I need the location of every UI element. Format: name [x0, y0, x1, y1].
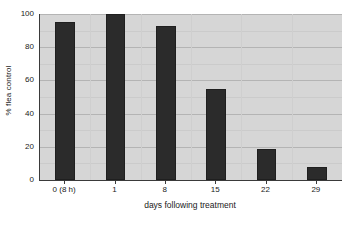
gridline-vertical	[292, 14, 293, 180]
x-axis-tick-label: 1	[112, 185, 116, 194]
x-axis-tick-mark	[64, 181, 65, 184]
bar	[206, 89, 225, 180]
gridline-vertical	[241, 14, 242, 180]
y-axis-title-text: % flea control	[5, 65, 14, 115]
x-axis-tick-label: 8	[163, 185, 167, 194]
bar	[257, 149, 276, 180]
gridline-vertical	[90, 14, 91, 180]
x-axis-tick-mark	[266, 181, 267, 184]
bar	[106, 14, 125, 180]
x-axis-tick-mark	[115, 181, 116, 184]
x-axis-tick-label: 22	[261, 185, 270, 194]
x-axis-title: days following treatment	[39, 200, 341, 210]
plot-area	[39, 14, 342, 181]
bar	[307, 167, 326, 180]
y-axis-tick-label: 20	[25, 143, 34, 151]
bar-chart-figure: % flea control 020406080100 days followi…	[0, 0, 354, 226]
x-axis-tick-label: 29	[311, 185, 320, 194]
gridline-vertical	[141, 14, 142, 180]
gridline-vertical	[191, 14, 192, 180]
x-axis-tick-mark	[165, 181, 166, 184]
y-axis-tick-label: 60	[25, 76, 34, 84]
x-axis-tick-mark	[215, 181, 216, 184]
y-axis-tick-label: 40	[25, 110, 34, 118]
x-axis-tick-mark	[316, 181, 317, 184]
y-axis-tick-label: 0	[30, 176, 34, 184]
y-axis-tick-label: 100	[21, 10, 34, 18]
x-axis-tick-label: 15	[211, 185, 220, 194]
y-axis-tick-label: 80	[25, 43, 34, 51]
bar	[156, 26, 175, 180]
bar	[55, 22, 74, 180]
y-axis-tick-labels: 020406080100	[16, 14, 37, 180]
x-axis-tick-label: 0 (8 h)	[53, 185, 76, 194]
